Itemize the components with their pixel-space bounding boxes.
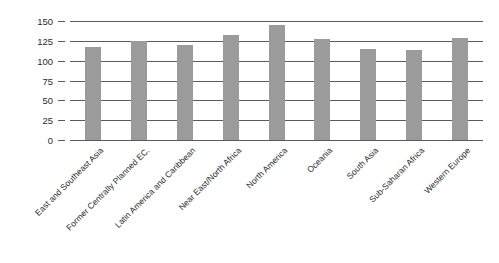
bar[interactable] [452, 38, 468, 140]
x-tick-label: North America [244, 146, 288, 190]
y-tick-mark [58, 21, 65, 22]
bar[interactable] [85, 47, 101, 140]
y-tick-label: 75 [19, 77, 53, 87]
y-tick-label: 100 [19, 57, 53, 67]
y-tick-mark [58, 120, 65, 121]
y-tick-label: 25 [19, 116, 53, 126]
bar[interactable] [131, 41, 147, 140]
y-tick-label: 150 [19, 17, 53, 27]
y-axis-tick-marks [58, 21, 70, 140]
y-tick-mark [58, 41, 65, 42]
bar[interactable] [406, 50, 422, 140]
x-tick-label: Oceania [306, 146, 334, 174]
bar[interactable] [314, 39, 330, 140]
bar-series [70, 21, 483, 140]
bar-chart: 150 125 100 75 50 25 0 [0, 0, 499, 263]
y-tick-mark [58, 100, 65, 101]
y-axis-tick-labels: 150 125 100 75 50 25 0 [19, 21, 53, 140]
y-tick-mark [58, 140, 65, 141]
x-tick-label: Latin America and Caribbean [113, 146, 197, 230]
bar[interactable] [177, 45, 193, 140]
bar[interactable] [360, 49, 376, 140]
y-tick-mark [58, 61, 65, 62]
y-tick-label: 0 [19, 136, 53, 146]
y-tick-label: 125 [19, 37, 53, 47]
x-tick-label: Western Europe [423, 146, 472, 195]
y-tick-label: 50 [19, 96, 53, 106]
y-tick-mark [58, 81, 65, 82]
x-axis-labels: East and Southeast Asia Former Centrally… [70, 141, 483, 261]
bar[interactable] [269, 25, 285, 140]
x-tick-label: Former Centrally Planned EC. [65, 146, 151, 232]
bar[interactable] [223, 35, 239, 141]
x-tick-label: South Asia [346, 146, 381, 181]
